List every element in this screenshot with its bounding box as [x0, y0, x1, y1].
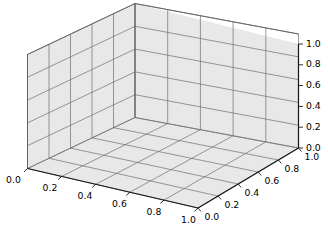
z-tick-label-2: 0.4: [306, 100, 321, 111]
x-tick-label-5: 1.0: [181, 214, 196, 225]
z-tick-label-5: 1.0: [306, 38, 321, 49]
x-tick-label-3: 0.6: [112, 198, 127, 209]
x-tick-label-1: 0.2: [43, 182, 58, 193]
z-tick-label-4: 0.8: [306, 58, 321, 69]
z-tick-label-0: 0.0: [306, 142, 321, 153]
x-tick-label-0: 0.0: [6, 174, 21, 185]
y-tick-label-3: 0.6: [265, 175, 280, 186]
x-tick-label-4: 0.8: [147, 206, 162, 217]
z-axis-ticks: 0.0 0.2 0.4 0.6 0.8 1.0: [299, 38, 321, 153]
z-tick-label-1: 0.2: [306, 121, 321, 132]
y-tick-label-0: 0.0: [205, 211, 220, 222]
figure-canvas: 0.0 0.2 0.4 0.6 0.8 1.0 0.0 0.2 0.4 0.6 …: [0, 0, 328, 234]
z-tick-label-3: 0.6: [306, 79, 321, 90]
axes-3d[interactable]: 0.0 0.2 0.4 0.6 0.8 1.0 0.0 0.2 0.4 0.6 …: [0, 0, 328, 234]
y-tick-label-1: 0.2: [225, 199, 240, 210]
x-tick-label-2: 0.4: [78, 190, 93, 201]
y-tick-label-4: 0.8: [285, 163, 300, 174]
y-tick-label-2: 0.4: [245, 187, 260, 198]
